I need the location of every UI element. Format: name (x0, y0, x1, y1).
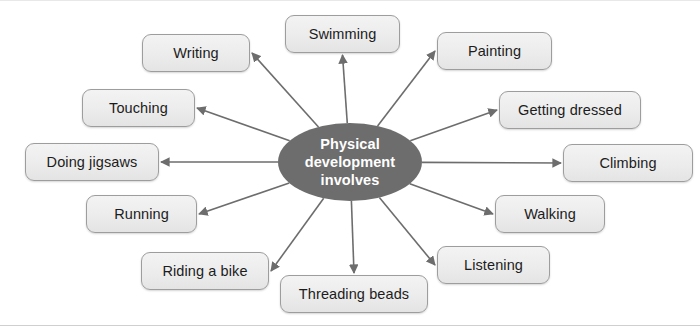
node-threading-beads[interactable]: Threading beads (280, 275, 428, 313)
node-writing[interactable]: Writing (142, 34, 250, 72)
node-touching[interactable]: Touching (82, 89, 195, 127)
edge-to-getting-dressed (410, 110, 497, 141)
node-listening[interactable]: Listening (437, 246, 550, 284)
node-painting[interactable]: Painting (437, 32, 552, 70)
central-node-label: Physical development involves (305, 135, 396, 189)
edge-to-painting (378, 51, 435, 126)
node-walking[interactable]: Walking (495, 195, 605, 233)
edge-to-swimming (343, 55, 348, 123)
edge-to-climbing (422, 162, 561, 163)
node-label-riding-a-bike: Riding a bike (162, 263, 247, 279)
node-label-doing-jigsaws: Doing jigsaws (47, 154, 138, 170)
node-getting-dressed[interactable]: Getting dressed (499, 91, 641, 129)
node-label-swimming: Swimming (309, 26, 377, 42)
node-label-threading-beads: Threading beads (299, 286, 409, 302)
node-label-writing: Writing (173, 45, 219, 61)
node-label-painting: Painting (468, 43, 521, 59)
node-riding-a-bike[interactable]: Riding a bike (141, 252, 269, 290)
edge-to-listening (379, 198, 435, 265)
edge-to-running (199, 183, 289, 214)
diagram-canvas: Physical development involves SwimmingWr… (0, 0, 700, 326)
node-label-climbing: Climbing (599, 155, 656, 171)
edge-to-riding-a-bike (271, 198, 324, 271)
node-running[interactable]: Running (86, 195, 197, 233)
node-swimming[interactable]: Swimming (285, 15, 400, 53)
edge-to-walking (410, 184, 493, 214)
edge-to-writing (252, 53, 318, 127)
node-climbing[interactable]: Climbing (563, 144, 693, 182)
node-label-walking: Walking (524, 206, 576, 222)
node-label-running: Running (114, 206, 169, 222)
edge-to-touching (197, 108, 290, 141)
central-node-line-2: development (305, 153, 396, 171)
node-label-getting-dressed: Getting dressed (518, 102, 622, 118)
node-label-touching: Touching (109, 100, 168, 116)
node-label-listening: Listening (464, 257, 523, 273)
central-node-line-3: involves (305, 171, 396, 189)
central-node[interactable]: Physical development involves (278, 123, 422, 201)
edge-to-threading-beads (351, 201, 354, 273)
node-doing-jigsaws[interactable]: Doing jigsaws (25, 143, 159, 181)
central-node-line-1: Physical (305, 135, 396, 153)
